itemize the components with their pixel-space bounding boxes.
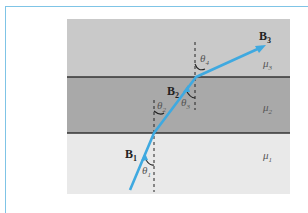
layer-medium-1 bbox=[67, 133, 290, 194]
refraction-diagram: B3 B2 B1 θ4 θ3 θ2 θ1 μ3 μ2 μ1 bbox=[0, 0, 308, 213]
layer-medium-2 bbox=[67, 77, 290, 133]
